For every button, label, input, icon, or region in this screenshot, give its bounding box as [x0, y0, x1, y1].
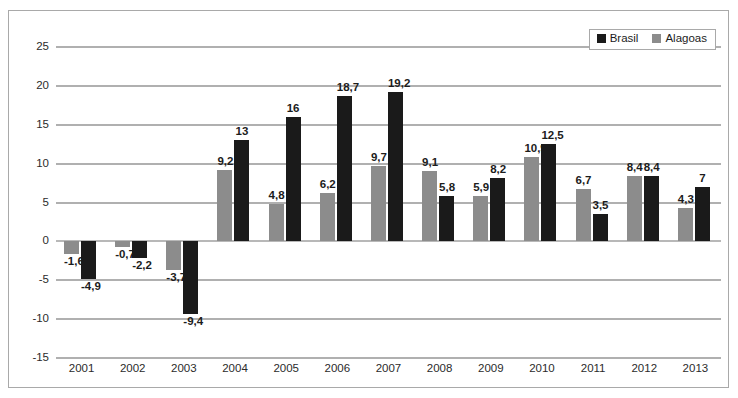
bar-brasil-2001: [81, 241, 96, 279]
bar-brasil-2004: [234, 140, 249, 241]
bar-brasil-2009: [490, 178, 505, 242]
bar-value-label: -0,7: [115, 249, 130, 261]
bar-brasil-2010: [541, 144, 556, 241]
bar-brasil-2006: [337, 96, 352, 241]
bar-brasil-2011: [593, 214, 608, 241]
bar-alagoas-2005: [269, 204, 284, 241]
legend-swatch-icon: [597, 34, 606, 43]
x-axis-label-2012: 2012: [619, 363, 670, 375]
bar-brasil-2005: [286, 117, 301, 241]
x-axis-label-2008: 2008: [414, 363, 465, 375]
bar-value-label: -2,2: [132, 260, 147, 272]
bar-alagoas-2001: [64, 241, 79, 253]
bar-alagoas-2008: [422, 171, 437, 242]
bar-value-label: 8,2: [490, 164, 505, 176]
bar-alagoas-2010: [524, 157, 539, 242]
y-axis-tick-label: -10: [32, 313, 49, 325]
y-axis-tick-label: 5: [43, 197, 49, 209]
bar-alagoas-2011: [576, 189, 591, 241]
bar-value-label: 13: [234, 126, 249, 138]
bar-brasil-2008: [439, 196, 454, 241]
bar-value-label: 16: [286, 103, 301, 115]
bar-group: 9,15,8: [414, 47, 465, 358]
bar-value-label: 8,4: [644, 162, 659, 174]
bar-alagoas-2003: [166, 241, 181, 270]
bar-alagoas-2002: [115, 241, 130, 246]
x-axis-label-2007: 2007: [363, 363, 414, 375]
plot-area: 2520151050-5-10-15 -1,6-4,9-0,7-2,2-3,7-…: [56, 47, 721, 358]
bar-value-label: 3,5: [593, 200, 608, 212]
bar-value-label: 4,8: [269, 190, 284, 202]
bar-value-label: 10,9: [524, 143, 539, 155]
bar-value-label: -3,7: [166, 272, 181, 284]
chart-legend: BrasilAlagoas: [589, 29, 716, 50]
bar-brasil-2012: [644, 176, 659, 241]
bar-alagoas-2004: [217, 170, 232, 242]
bar-value-label: 9,7: [371, 152, 386, 164]
x-axis-label-2006: 2006: [312, 363, 363, 375]
bar-value-label: 8,4: [627, 162, 642, 174]
bars-layer: -1,6-4,9-0,7-2,2-3,7-9,49,2134,8166,218,…: [56, 47, 721, 358]
x-axis-label-2002: 2002: [107, 363, 158, 375]
bar-group: 4,816: [261, 47, 312, 358]
bar-group: 5,98,2: [465, 47, 516, 358]
y-axis-tick-label: -5: [39, 275, 49, 287]
x-axis-label-2013: 2013: [670, 363, 721, 375]
bar-value-label: 5,8: [439, 182, 454, 194]
bar-group: -0,7-2,2: [107, 47, 158, 358]
bar-brasil-2002: [132, 241, 147, 258]
bar-alagoas-2007: [371, 166, 386, 241]
bar-value-label: 12,5: [541, 130, 556, 142]
legend-swatch-icon: [652, 34, 661, 43]
bar-group: 9,213: [209, 47, 260, 358]
x-axis-label-2001: 2001: [56, 363, 107, 375]
bar-brasil-2003: [183, 241, 198, 314]
y-axis-tick-label: -15: [32, 352, 49, 364]
x-axis-label-2009: 2009: [465, 363, 516, 375]
bar-group: -3,7-9,4: [158, 47, 209, 358]
bar-value-label: -1,6: [64, 256, 79, 268]
bar-group: 9,719,2: [363, 47, 414, 358]
bar-value-label: -9,4: [183, 316, 198, 328]
bar-value-label: 6,7: [576, 175, 591, 187]
y-axis-tick-label: 0: [43, 236, 49, 248]
x-axis-label-2003: 2003: [158, 363, 209, 375]
bar-group: 6,73,5: [568, 47, 619, 358]
chart-frame: 2520151050-5-10-15 -1,6-4,9-0,7-2,2-3,7-…: [8, 10, 729, 388]
bar-alagoas-2012: [627, 176, 642, 241]
bar-value-label: 18,7: [337, 82, 352, 94]
bar-group: -1,6-4,9: [56, 47, 107, 358]
bar-value-label: 7: [695, 173, 710, 185]
bar-brasil-2013: [695, 187, 710, 241]
x-axis-label-2010: 2010: [516, 363, 567, 375]
bar-group: 8,48,4: [619, 47, 670, 358]
x-axis-categories: 2001200220032004200520062007200820092010…: [56, 363, 721, 385]
x-axis-label-2004: 2004: [209, 363, 260, 375]
legend-label: Alagoas: [665, 33, 707, 45]
bar-alagoas-2006: [320, 193, 335, 241]
legend-label: Brasil: [610, 33, 639, 45]
y-axis-tick-label: 10: [36, 158, 49, 170]
bar-alagoas-2013: [678, 208, 693, 241]
x-axis-label-2011: 2011: [568, 363, 619, 375]
bar-brasil-2007: [388, 92, 403, 241]
legend-item-alagoas[interactable]: Alagoas: [652, 33, 707, 45]
bar-value-label: -4,9: [81, 281, 96, 293]
y-axis-tick-label: 25: [36, 41, 49, 53]
bar-group: 10,912,5: [516, 47, 567, 358]
bar-value-label: 5,9: [473, 182, 488, 194]
bar-alagoas-2009: [473, 196, 488, 242]
legend-item-brasil[interactable]: Brasil: [597, 33, 639, 45]
bar-group: 4,37: [670, 47, 721, 358]
bar-value-label: 9,2: [217, 156, 232, 168]
bar-value-label: 4,3: [678, 194, 693, 206]
bar-value-label: 6,2: [320, 179, 335, 191]
y-axis-tick-label: 15: [36, 119, 49, 131]
bar-value-label: 9,1: [422, 157, 437, 169]
bar-group: 6,218,7: [312, 47, 363, 358]
x-axis-label-2005: 2005: [261, 363, 312, 375]
bar-value-label: 19,2: [388, 78, 403, 90]
y-axis-tick-label: 20: [36, 80, 49, 92]
